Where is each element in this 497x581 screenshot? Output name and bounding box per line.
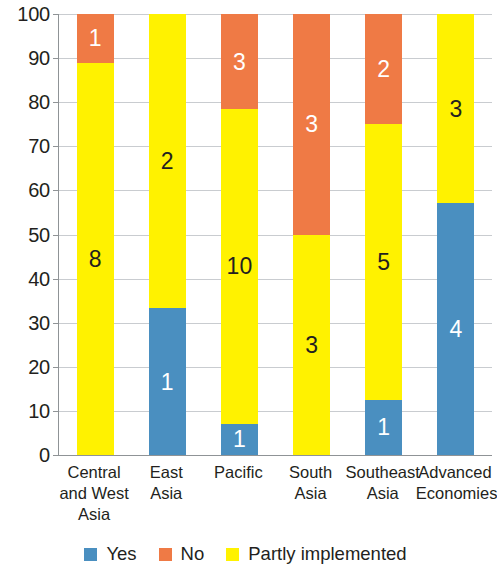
x-axis-label-line: Economies: [416, 483, 494, 504]
x-axis-label-line: Advanced: [416, 462, 494, 483]
y-tick-label: 70: [0, 136, 50, 156]
legend-swatch-icon: [84, 548, 97, 561]
y-tick-label: 90: [0, 48, 50, 68]
chart-legend: YesNoPartly implemented: [0, 545, 491, 564]
y-tick-label: 80: [0, 92, 50, 112]
y-tick-label: 40: [0, 269, 50, 289]
y-tick-label: 0: [0, 445, 50, 465]
legend-label: No: [181, 545, 205, 564]
y-tickmark: [53, 455, 59, 456]
bar-segment[interactable]: [77, 14, 114, 63]
y-tick-label: 50: [0, 225, 50, 245]
legend-swatch-icon: [159, 548, 172, 561]
y-tick-label: 100: [0, 4, 50, 24]
y-axis-tick-labels: 0102030405060708090100: [0, 0, 50, 470]
y-tick-label: 10: [0, 401, 50, 421]
x-axis-label-line: and West: [55, 483, 133, 504]
x-axis-label: EastAsia: [127, 462, 205, 504]
bar-segment[interactable]: [221, 424, 258, 455]
x-axis-label-line: Southeast: [344, 462, 422, 483]
y-tick-label: 20: [0, 357, 50, 377]
x-axis-label: SoutheastAsia: [344, 462, 422, 504]
bar-column[interactable]: 33: [293, 14, 330, 455]
bar-segment[interactable]: [221, 14, 258, 108]
bar-segment[interactable]: [221, 109, 258, 424]
bar-segment[interactable]: [437, 14, 474, 203]
bar-segment[interactable]: [149, 308, 186, 455]
y-tick-label: 60: [0, 180, 50, 200]
legend-item[interactable]: Partly implemented: [226, 545, 406, 564]
plot-wrapper: 0102030405060708090100 811211033315243: [0, 0, 491, 470]
x-axis-label-line: South: [272, 462, 350, 483]
bar-column[interactable]: 43: [437, 14, 474, 455]
x-axis-label-line: Asia: [127, 483, 205, 504]
x-axis-label: Pacific: [199, 462, 277, 483]
x-axis-label: AdvancedEconomies: [416, 462, 494, 504]
bar-column[interactable]: 1103: [221, 14, 258, 455]
x-axis-label: Centraland WestAsia: [55, 462, 133, 525]
bar-segment[interactable]: [293, 14, 330, 235]
x-axis-label-line: East: [127, 462, 205, 483]
bar-segment[interactable]: [365, 14, 402, 124]
bar-segment[interactable]: [77, 63, 114, 455]
x-axis-label-line: Central: [55, 462, 133, 483]
x-axis-label-line: Asia: [272, 483, 350, 504]
x-axis-label-line: Asia: [55, 504, 133, 525]
bar-segment[interactable]: [437, 203, 474, 455]
legend-item[interactable]: Yes: [84, 545, 136, 564]
legend-item[interactable]: No: [159, 545, 205, 564]
plot-area: 811211033315243: [58, 14, 492, 456]
bar-column[interactable]: 12: [149, 14, 186, 455]
bar-segment[interactable]: [293, 235, 330, 456]
bar-column[interactable]: 152: [365, 14, 402, 455]
legend-label: Partly implemented: [248, 545, 406, 564]
bar-segment[interactable]: [365, 400, 402, 455]
x-axis-label: SouthAsia: [272, 462, 350, 504]
x-axis-label-line: Pacific: [199, 462, 277, 483]
x-axis-category-labels: Centraland WestAsiaEastAsiaPacificSouthA…: [58, 462, 491, 540]
bar-segment[interactable]: [149, 14, 186, 308]
y-tick-label: 30: [0, 313, 50, 333]
legend-swatch-icon: [226, 548, 239, 561]
bar-segment[interactable]: [365, 124, 402, 400]
bar-column[interactable]: 81: [77, 14, 114, 455]
bars-layer: 811211033315243: [59, 14, 492, 455]
legend-label: Yes: [106, 545, 136, 564]
x-axis-label-line: Asia: [344, 483, 422, 504]
